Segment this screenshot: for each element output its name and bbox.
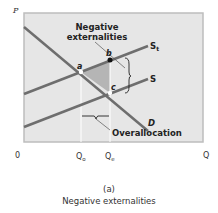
c-label: c xyxy=(111,83,116,92)
origin-label: 0 xyxy=(15,151,20,160)
s-label: S xyxy=(150,74,156,84)
annotation-line2: externalities xyxy=(67,32,128,42)
y-axis-label: P xyxy=(12,6,19,15)
d-label: D xyxy=(148,118,155,128)
qo-label: Qo xyxy=(76,152,86,162)
annotation-line1: Negative xyxy=(76,22,119,32)
a-label: a xyxy=(77,62,82,71)
b-label: b xyxy=(106,49,112,58)
x-axis-label: Q xyxy=(203,151,209,160)
panel-label: (a) xyxy=(0,184,218,194)
point-b xyxy=(108,58,113,63)
overallocation-label: Overallocation xyxy=(112,128,182,138)
qe-label: Qe xyxy=(105,152,115,162)
externality-chart: P 0 Q Qo Qe St S D a b c Negative extern… xyxy=(0,0,218,213)
chart-caption: Negative externalities xyxy=(0,196,218,206)
